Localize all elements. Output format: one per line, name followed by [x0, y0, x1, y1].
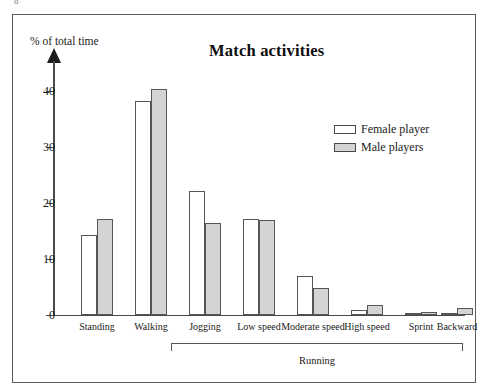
bar-group [81, 219, 113, 315]
bar-female[interactable] [297, 276, 313, 315]
y-axis-title: % of total time [30, 35, 99, 47]
bar-male[interactable] [457, 308, 473, 315]
bar-female[interactable] [135, 101, 151, 315]
bar-group [351, 305, 383, 315]
category-label: Walking [134, 321, 168, 332]
bar-group [243, 219, 275, 315]
y-tick-label: 40 [31, 84, 55, 99]
bar-female[interactable] [441, 313, 457, 316]
bar-male[interactable] [313, 288, 329, 315]
category-label: Sprint [409, 321, 433, 332]
legend-label-male: Male players [361, 140, 423, 155]
bar-female[interactable] [81, 235, 97, 315]
bar-group [405, 312, 437, 315]
bar-male[interactable] [97, 219, 113, 315]
bar-female[interactable] [351, 310, 367, 315]
legend-swatch-female-icon [334, 125, 356, 134]
chart-title: Match activities [209, 41, 324, 61]
bar-group [441, 308, 473, 315]
y-tick-label: 20 [31, 196, 55, 211]
category-label: Jogging [189, 321, 221, 332]
bar-female[interactable] [405, 313, 421, 316]
running-bracket-label: Running [171, 355, 463, 366]
category-label: High speed [344, 321, 389, 332]
bar-group [189, 191, 221, 315]
bar-male[interactable] [205, 223, 221, 315]
bar-group [135, 89, 167, 315]
bar-female[interactable] [243, 219, 259, 315]
x-axis-line [53, 315, 465, 316]
bar-group [297, 276, 329, 315]
y-tick-label: 10 [31, 252, 55, 267]
y-axis-line [53, 61, 55, 315]
y-tick-label: 0 [31, 308, 55, 323]
category-label: Moderate speed [281, 321, 345, 332]
category-label: Low speed [237, 321, 281, 332]
running-bracket [171, 343, 463, 351]
legend: Female player Male players [334, 121, 429, 157]
bar-female[interactable] [189, 191, 205, 315]
plot-area: Match activities % of total time 0102030… [13, 15, 477, 384]
legend-item-female[interactable]: Female player [334, 121, 429, 137]
chart-frame: Match activities % of total time 0102030… [12, 14, 476, 383]
category-label: Standing [79, 321, 115, 332]
legend-label-female: Female player [361, 122, 429, 137]
bar-male[interactable] [367, 305, 383, 315]
figure-caption: o [14, 0, 19, 6]
y-tick-label: 30 [31, 140, 55, 155]
bar-male[interactable] [421, 312, 437, 315]
category-label: Backward [437, 321, 478, 332]
bar-male[interactable] [151, 89, 167, 315]
bar-male[interactable] [259, 220, 275, 315]
legend-item-male[interactable]: Male players [334, 139, 429, 155]
legend-swatch-male-icon [334, 143, 356, 152]
